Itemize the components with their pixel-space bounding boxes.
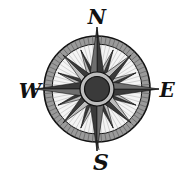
east-label: E [158,78,175,102]
compass-rose-graphic [35,27,159,151]
north-label: N [87,5,107,29]
west-label: W [19,79,44,103]
compass-rose: N E S W [0,0,186,182]
hub-center [85,77,110,102]
south-label: S [93,149,109,175]
